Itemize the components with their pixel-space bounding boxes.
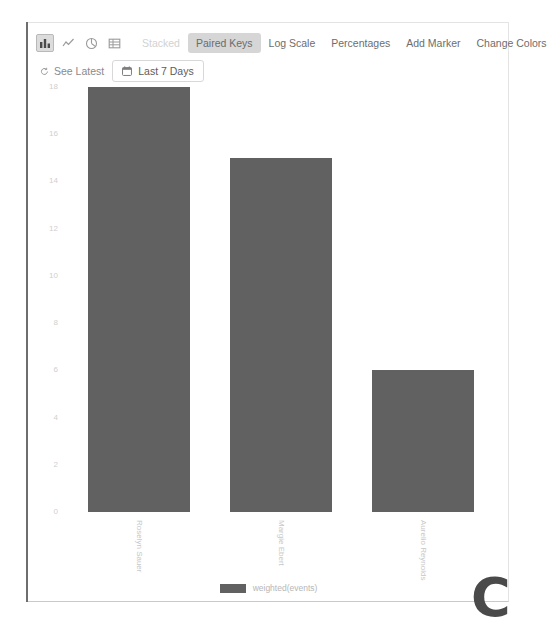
legend-swatch-weighted-events [220, 584, 246, 593]
log-scale-button[interactable]: Log Scale [261, 33, 324, 53]
refresh-icon [40, 67, 49, 76]
see-latest-button[interactable]: See Latest [38, 62, 112, 80]
y-axis-tick-label: 10 [36, 272, 58, 280]
see-latest-label: See Latest [54, 65, 104, 77]
legend-label-weighted-events: weighted(events) [253, 584, 318, 593]
y-axis-tick-label: 12 [36, 225, 58, 233]
date-range-picker[interactable]: Last 7 Days [112, 60, 203, 82]
bar[interactable] [372, 370, 474, 512]
x-axis-tick-label: Aurelio Reynolds [419, 520, 427, 580]
x-axis-tick-label: Margie Ebert [277, 520, 285, 566]
y-axis-tick-label: 14 [36, 177, 58, 185]
add-marker-button[interactable]: Add Marker [398, 33, 468, 53]
percentages-button[interactable]: Percentages [323, 33, 398, 53]
corner-logo-glyph: C [471, 576, 513, 622]
change-colors-button[interactable]: Change Colors [469, 33, 551, 53]
y-axis-tick-label: 0 [36, 508, 58, 516]
y-axis-tick-label: 2 [36, 461, 58, 469]
bar-chart-plot: 024681012141618Roselyn SauerMargie Ebert… [28, 23, 509, 603]
bar[interactable] [230, 158, 332, 512]
y-axis-tick-label: 6 [36, 366, 58, 374]
table-icon[interactable] [105, 34, 123, 52]
chart-legend: weighted(events) [28, 584, 509, 593]
bar-chart-icon[interactable] [36, 34, 54, 52]
y-axis-tick-label: 18 [36, 83, 58, 91]
line-chart-icon[interactable] [59, 34, 77, 52]
x-axis-tick-label: Roselyn Sauer [135, 520, 143, 572]
calendar-icon [122, 66, 132, 76]
pie-chart-icon[interactable] [82, 34, 100, 52]
y-axis-tick-label: 4 [36, 414, 58, 422]
y-axis-tick-label: 16 [36, 130, 58, 138]
bar[interactable] [88, 87, 190, 512]
chart-card: Stacked Paired Keys Log Scale Percentage… [28, 22, 509, 602]
stacked-button: Stacked [134, 33, 188, 53]
paired-keys-button[interactable]: Paired Keys [188, 33, 261, 53]
y-axis-tick-label: 8 [36, 319, 58, 327]
date-range-label: Last 7 Days [138, 65, 193, 77]
chart-toolbar-secondary: See Latest Last 7 Days [38, 59, 204, 83]
chart-toolbar-primary: Stacked Paired Keys Log Scale Percentage… [36, 32, 551, 54]
